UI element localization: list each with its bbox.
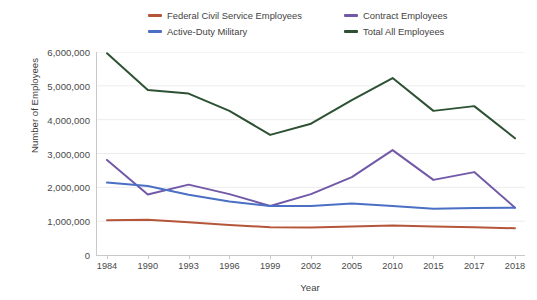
- x-tick-mark: [474, 255, 475, 259]
- x-tick-mark: [311, 255, 312, 259]
- legend-label: Total All Employees: [363, 26, 444, 37]
- x-tick-mark: [107, 255, 108, 259]
- series-line-3: [107, 53, 515, 138]
- x-tick-label: 2018: [505, 261, 525, 271]
- x-tick-mark: [189, 255, 190, 259]
- series-line-2: [107, 183, 515, 209]
- line-chart: Federal Civil Service EmployeesContract …: [0, 0, 537, 300]
- legend-label: Contract Employees: [363, 10, 447, 21]
- x-tick-mark: [433, 255, 434, 259]
- y-tick-label: 2,000,000: [47, 182, 90, 193]
- x-tick-label: 1984: [97, 261, 117, 271]
- x-tick-label: 2015: [423, 261, 443, 271]
- y-tick-label: 5,000,000: [47, 80, 90, 91]
- x-tick-label: 1999: [260, 261, 280, 271]
- x-tick-label: 2010: [382, 261, 402, 271]
- legend-swatch-icon: [148, 14, 162, 16]
- x-tick-mark: [229, 255, 230, 259]
- legend-label: Active-Duty Military: [167, 26, 247, 37]
- series-line-1: [107, 150, 515, 208]
- legend-swatch-icon: [344, 30, 358, 32]
- legend-item-1[interactable]: Contract Employees: [344, 10, 447, 21]
- chart-legend: Federal Civil Service EmployeesContract …: [148, 10, 508, 42]
- plot-area: 01,000,0002,000,0003,000,0004,000,0005,0…: [96, 52, 525, 256]
- y-tick-label: 6,000,000: [47, 47, 90, 58]
- x-tick-label: 1996: [219, 261, 239, 271]
- y-tick-label: 1,000,000: [47, 216, 90, 227]
- x-tick-mark: [270, 255, 271, 259]
- legend-swatch-icon: [344, 14, 358, 16]
- legend-item-2[interactable]: Active-Duty Military: [148, 26, 247, 37]
- legend-item-0[interactable]: Federal Civil Service Employees: [148, 10, 302, 21]
- x-tick-label: 2002: [301, 261, 321, 271]
- x-tick-label: 2017: [464, 261, 484, 271]
- x-tick-mark: [352, 255, 353, 259]
- legend-label: Federal Civil Service Employees: [167, 10, 302, 21]
- x-tick-mark: [148, 255, 149, 259]
- y-axis-title: Number of Employees: [29, 26, 40, 186]
- x-tick-mark: [393, 255, 394, 259]
- x-tick-label: 1993: [178, 261, 198, 271]
- plot-svg: [97, 52, 525, 255]
- y-tick-label: 0: [85, 250, 90, 261]
- y-tick-label: 3,000,000: [47, 148, 90, 159]
- legend-swatch-icon: [148, 30, 162, 32]
- y-tick-label: 4,000,000: [47, 114, 90, 125]
- x-tick-mark: [515, 255, 516, 259]
- legend-item-3[interactable]: Total All Employees: [344, 26, 444, 37]
- x-tick-label: 2005: [342, 261, 362, 271]
- x-tick-label: 1990: [138, 261, 158, 271]
- x-axis-title: Year: [96, 282, 524, 293]
